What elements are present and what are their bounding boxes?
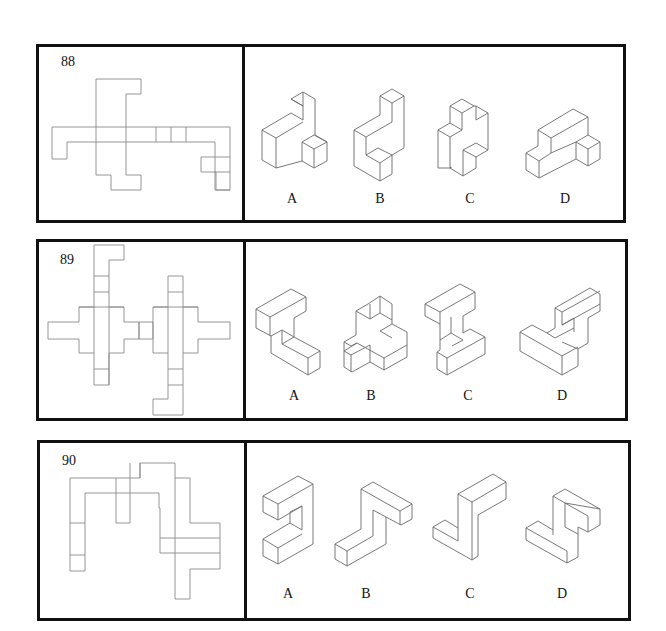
problem-89-option-c-label[interactable]: C — [458, 388, 478, 404]
problem-88-option-a-label[interactable]: A — [282, 191, 302, 207]
problem-90-option-a-solid — [263, 476, 313, 564]
problem-88-option-a-solid — [262, 92, 327, 168]
problem-88-net — [52, 79, 230, 190]
problem-89-option-b-label[interactable]: B — [361, 388, 381, 404]
problem-88-option-b-solid — [354, 89, 404, 181]
problem-88-option-d-solid — [526, 109, 600, 178]
problem-88-option-c-label[interactable]: C — [460, 191, 480, 207]
problem-88-option-d-label[interactable]: D — [555, 191, 575, 207]
problem-90-option-b-label[interactable]: B — [356, 586, 376, 602]
problem-90-option-a-label[interactable]: A — [278, 586, 298, 602]
problem-88-option-c-solid — [438, 99, 488, 176]
problem-89-option-a-solid — [256, 289, 320, 375]
problem-90-net — [70, 463, 220, 599]
problem-90-option-d-solid — [526, 489, 600, 563]
problem-89-option-b-solid — [344, 296, 407, 372]
problem-88-option-b-label[interactable]: B — [370, 191, 390, 207]
problem-90-option-d-label[interactable]: D — [552, 586, 572, 602]
problem-90-option-c-label[interactable]: C — [460, 586, 480, 602]
problem-89-option-c-solid — [425, 284, 485, 375]
problem-89-option-d-solid — [520, 288, 600, 375]
problem-90-option-c-solid — [433, 474, 506, 560]
protect-90-option-b-solid — [335, 482, 412, 566]
figures-canvas — [0, 0, 666, 631]
problem-89-option-d-label[interactable]: D — [552, 388, 572, 404]
problem-89-net — [48, 245, 230, 415]
problem-89-option-a-label[interactable]: A — [284, 388, 304, 404]
